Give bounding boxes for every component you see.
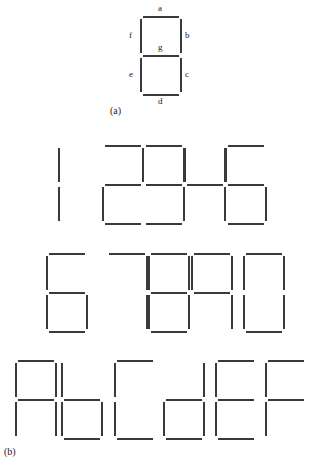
- segment-f: [191, 256, 193, 290]
- seven-segment-digit-7: [105, 253, 149, 333]
- segment-c: [101, 402, 103, 436]
- segment-d: [218, 438, 254, 440]
- segment-d: [166, 438, 202, 440]
- segment-g: [49, 292, 85, 294]
- segment-e: [140, 58, 142, 92]
- segment-f: [58, 148, 60, 182]
- segment-g: [64, 399, 100, 401]
- segment-a: [49, 253, 85, 255]
- segment-f: [225, 148, 227, 182]
- segment-f: [15, 363, 17, 397]
- segment-a: [218, 360, 254, 362]
- segment-c: [231, 295, 233, 329]
- seven-segment-digit-3: [142, 145, 186, 225]
- segment-e: [46, 295, 48, 329]
- segment-d: [64, 438, 100, 440]
- segment-c: [55, 402, 57, 436]
- segment-f: [215, 363, 217, 397]
- segment-a: [228, 145, 264, 147]
- segment-c: [265, 187, 267, 221]
- segment-e: [15, 402, 17, 436]
- segment-c: [203, 402, 205, 436]
- segment-a: [146, 145, 182, 147]
- seven-segment-digit-1: [57, 145, 101, 225]
- seven-segment-digit-5: [224, 145, 268, 225]
- digit-row: [0, 145, 326, 225]
- seven-segment-digit-4: [183, 145, 227, 225]
- segment-f: [148, 256, 150, 290]
- segment-f: [243, 256, 245, 290]
- segment-a: [105, 145, 141, 147]
- segment-label-g: g: [158, 43, 163, 52]
- seven-segment-digit-2: [101, 145, 145, 225]
- segment-b: [180, 19, 182, 53]
- segment-e: [102, 187, 104, 221]
- segment-f: [140, 19, 142, 53]
- segment-d: [49, 331, 85, 333]
- segment-e: [163, 402, 165, 436]
- segment-label-f: f: [129, 31, 132, 40]
- segment-a: [246, 253, 282, 255]
- segment-g: [218, 399, 254, 401]
- seven-segment-digit-8: [147, 253, 191, 333]
- segment-g: [194, 292, 230, 294]
- segment-g: [268, 399, 304, 401]
- segment-e: [243, 295, 245, 329]
- segment-f: [265, 363, 267, 397]
- segment-b: [203, 363, 205, 397]
- seven-segment-digit-d: [162, 360, 206, 440]
- segment-label-a: a: [158, 4, 162, 13]
- seven-segment-digit-F: [264, 360, 308, 440]
- segment-g: [143, 55, 179, 57]
- seven-segment-digit-9: [190, 253, 234, 333]
- figure-part-b: (b): [0, 131, 326, 467]
- seven-segment-digit-b: [60, 360, 104, 440]
- digit-row: [0, 253, 326, 333]
- segment-a: [109, 253, 145, 255]
- segment-b: [283, 256, 285, 290]
- segment-d: [246, 331, 282, 333]
- segment-label-e: e: [129, 70, 133, 79]
- segment-a: [18, 360, 54, 362]
- segment-e: [265, 402, 267, 436]
- segment-d: [117, 438, 153, 440]
- segment-d: [151, 331, 187, 333]
- segment-g: [151, 292, 187, 294]
- segment-e: [215, 402, 217, 436]
- seven-segment-digit-E: [214, 360, 258, 440]
- seven-segment-digit-0: [242, 253, 286, 333]
- segment-g: [18, 399, 54, 401]
- segment-e: [58, 187, 60, 221]
- segment-d: [228, 223, 264, 225]
- segment-label-d: d: [158, 97, 163, 106]
- caption-part-a: (a): [110, 105, 121, 116]
- segment-c: [180, 58, 182, 92]
- segment-label-b: b: [185, 31, 190, 40]
- segment-a: [151, 253, 187, 255]
- segment-g: [187, 184, 223, 186]
- segment-f: [184, 148, 186, 182]
- segment-f: [61, 363, 63, 397]
- seven-segment-digit-A: [14, 360, 58, 440]
- segment-f: [46, 256, 48, 290]
- segment-e: [114, 402, 116, 436]
- caption-part-b: (b): [4, 446, 16, 457]
- segment-f: [114, 363, 116, 397]
- seven-segment-digit-6: [45, 253, 89, 333]
- seven-segment-digit-C: [113, 360, 157, 440]
- figure-part-a: a f b g e c d (a): [0, 0, 326, 131]
- segment-e: [61, 402, 63, 436]
- segment-a: [117, 360, 153, 362]
- segment-g: [105, 184, 141, 186]
- segment-a: [194, 253, 230, 255]
- segment-e: [148, 295, 150, 329]
- seven-segment-template: a f b g e c d: [139, 16, 183, 96]
- segment-c: [283, 295, 285, 329]
- segment-g: [146, 184, 182, 186]
- segment-b: [55, 363, 57, 397]
- segment-d: [146, 223, 182, 225]
- segment-b: [231, 256, 233, 290]
- segment-a: [143, 16, 179, 18]
- digit-row: [0, 360, 326, 440]
- segment-g: [166, 399, 202, 401]
